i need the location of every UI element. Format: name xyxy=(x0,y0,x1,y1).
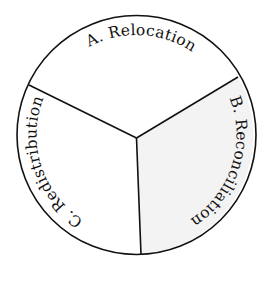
three-sector-circle-diagram: A. Relocation B. Reconciliation C. Redis… xyxy=(0,0,276,296)
sector-a-label: A. Relocation xyxy=(82,21,199,56)
divider-a-c xyxy=(29,85,137,138)
sector-c-label: C. Redistribution xyxy=(22,93,85,231)
